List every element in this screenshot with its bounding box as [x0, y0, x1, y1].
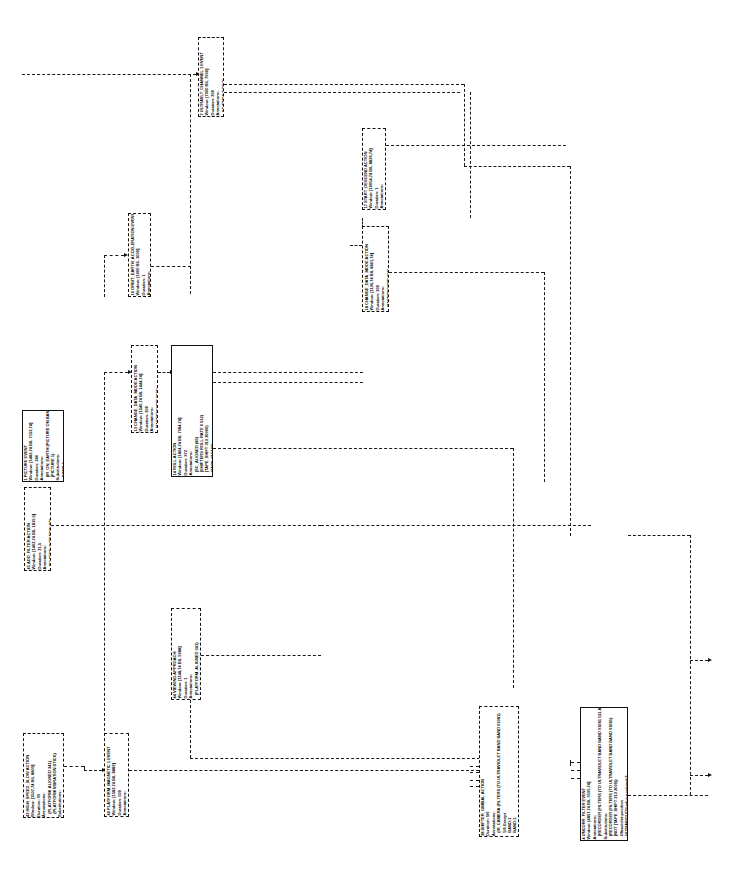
connector-h-45 — [571, 778, 580, 779]
connector-h-39 — [470, 772, 479, 773]
connector-h-15 — [158, 372, 170, 373]
node-text-change-data-mode-action-13: 13 CHANGE_DATA_MODE ACTION Window: [1540… — [132, 347, 157, 432]
connector-v-5 — [464, 84, 465, 166]
node-platform-magnetic-1-event[interactable]: 40 PLATFORM_MAGNETIC 1 EVENT Window: [15… — [104, 733, 129, 817]
arrowhead-icon — [708, 773, 712, 777]
node-text-shifter-gimbal-action: 38 SHIFTER_GIMBAL ACTION Duration: 5/6 A… — [480, 708, 518, 836]
node-text-add-filter-action: 41 ADD_FILTER ACTION Window: [1402,74 BI… — [25, 489, 50, 570]
node-change-data-mode-action-18[interactable]: 18 CHANGE_DATA_MODE ACTION Window: [1136… — [362, 226, 389, 312]
connector-h-29 — [321, 525, 591, 526]
connector-h-11 — [151, 266, 191, 267]
connector-h-1 — [178, 74, 196, 75]
connector-h-43 — [571, 762, 580, 763]
node-change-data-mode-action-13[interactable]: 13 CHANGE_DATA_MODE ACTION Window: [1540… — [131, 345, 158, 433]
connector-v-24 — [544, 272, 545, 482]
connector-h-0 — [22, 74, 196, 75]
connector-h-13 — [104, 372, 128, 373]
node-text-start-descend-action: 17 START_DESCEND ACTION Window: [10054,7… — [363, 130, 385, 209]
diagram-canvas: 7 ULTRAVLT_CHANNEL 1 EVENT Window: [7000… — [0, 0, 732, 890]
connector-h-41 — [470, 786, 479, 787]
connector-h-27 — [51, 525, 321, 526]
connector-h-50 — [628, 795, 708, 796]
connector-h-36 — [129, 770, 479, 771]
node-text-platform-magnetic-1-event: 40 PLATFORM_MAGNETIC 1 EVENT Window: [15… — [105, 735, 128, 816]
connector-h-10 — [104, 255, 124, 256]
node-text-viewing-approach-action: 44 VIEWING APPROACH Window: [1148,74 BIL… — [172, 610, 200, 699]
connector-h-23 — [389, 272, 544, 273]
connector-h-4 — [224, 92, 460, 93]
connector-h-32 — [201, 655, 321, 656]
connector-h-44 — [571, 770, 580, 771]
connector-h-40 — [470, 780, 479, 781]
connector-h-3 — [224, 84, 464, 85]
connector-h-33 — [64, 766, 84, 767]
connector-h-25 — [213, 448, 513, 449]
node-text-roll-action: 14 ROLL ACTION Window: [1804,74 BIL 7984… — [172, 347, 212, 476]
connector-v-30 — [190, 700, 191, 758]
connector-v-12 — [190, 266, 191, 294]
node-viewing-approach-action[interactable]: 44 VIEWING APPROACH Window: [1148,74 BIL… — [171, 608, 201, 700]
connector-v-35 — [84, 766, 85, 770]
connector-v-14 — [104, 372, 105, 756]
node-orbit-earth-acceleration-event[interactable]: 10 ORBIT_EARTH_ACCELERATION EVENT Window… — [128, 213, 151, 297]
node-text-change-data-mode-action-18: 18 CHANGE_DATA_MODE ACTION Window: [1136… — [363, 228, 388, 311]
node-ultravlt-channel-1-event[interactable]: 7 ULTRAVLT_CHANNEL 1 EVENT Window: [7000… — [198, 37, 224, 117]
node-picture-event[interactable]: 1 PICTURE EVENT Window: [1483,74 BIL 715… — [22, 410, 64, 482]
node-start-descend-action[interactable]: 17 START_DESCEND ACTION Window: [10054,7… — [362, 128, 386, 210]
connector-h-7 — [464, 166, 570, 167]
connector-h-31 — [190, 758, 480, 759]
connector-v-8 — [570, 166, 571, 536]
connector-v-46 — [690, 535, 691, 795]
connector-h-47 — [628, 535, 690, 536]
node-text-picture-event: 1 PICTURE EVENT Window: [1483,74 BIL 715… — [23, 412, 63, 481]
node-high-speed-slow-action[interactable]: 43 HIGH_SPEED_SLOW ACTION Window: [1507,… — [23, 733, 64, 818]
connector-h-17 — [213, 382, 363, 383]
node-text-ultravlt-channel-1-event: 7 ULTRAVLT_CHANNEL 1 EVENT Window: [7000… — [199, 39, 223, 116]
connector-v-9 — [104, 255, 105, 297]
connector-v-2 — [190, 74, 191, 294]
node-shifter-gimbal-action[interactable]: 38 SHIFTER_GIMBAL ACTION Duration: 5/6 A… — [479, 706, 519, 837]
connector-v-26 — [513, 448, 514, 688]
connector-v-6 — [470, 92, 471, 218]
connector-h-38 — [470, 766, 479, 767]
node-roll-action[interactable]: 14 ROLL ACTION Window: [1804,74 BIL 7984… — [171, 345, 213, 477]
connector-v-42 — [570, 760, 571, 766]
connector-h-34 — [84, 770, 102, 771]
connector-h-48 — [690, 660, 708, 661]
connector-h-16 — [213, 372, 363, 373]
node-text-orbit-earth-acceleration-event: 10 ORBIT_EARTH_ACCELERATION EVENT Window… — [129, 215, 150, 296]
arrowhead-icon — [708, 658, 712, 662]
node-add-filter-action[interactable]: 41 ADD_FILTER ACTION Window: [1402,74 BI… — [24, 487, 51, 571]
node-text-uncorr-filter-event: 4 UNCORR_FILTER EVENT Window: [4857,74 B… — [581, 709, 627, 840]
node-text-high-speed-slow-action: 43 HIGH_SPEED_SLOW ACTION Window: [1507,… — [24, 735, 63, 817]
node-uncorr-filter-event[interactable]: 4 UNCORR_FILTER EVENT Window: [4857,74 B… — [580, 707, 628, 841]
connector-h-19 — [350, 245, 362, 246]
connector-h-21 — [386, 145, 566, 146]
connector-h-49 — [690, 775, 708, 776]
